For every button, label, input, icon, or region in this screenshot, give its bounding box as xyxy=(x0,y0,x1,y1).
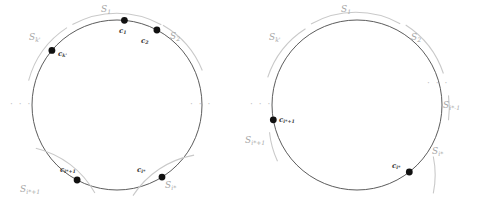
left-main-circle xyxy=(32,20,202,190)
right-label-cistar1: ci*+1 xyxy=(279,116,295,125)
right-label-Sistarm1: Si*-1 xyxy=(443,101,460,111)
right-label-cistar: ci* xyxy=(392,162,401,171)
right-ellipsis-east: · · · xyxy=(427,78,449,88)
right-arc-Sistar1 xyxy=(270,132,278,161)
left-label-Sk: Sk' xyxy=(29,33,41,43)
right-point-cistar1 xyxy=(270,116,277,123)
left-point-cistar1 xyxy=(74,177,81,184)
right-main-circle xyxy=(272,20,442,190)
right-label-Sistar1: Si*+1 xyxy=(245,136,265,146)
left-label-c2: c2 xyxy=(141,37,149,46)
left-label-S2: S2 xyxy=(170,32,180,42)
right-circle-group xyxy=(268,12,450,193)
left-label-Sistar1: Si*+1 xyxy=(20,185,40,195)
left-ellipsis-west: · · · xyxy=(10,99,32,109)
left-label-S1: S1 xyxy=(101,5,111,15)
left-label-cistar1: ci*+1 xyxy=(60,166,76,175)
right-label-Sk: Sk' xyxy=(269,33,281,43)
left-label-c1: c1 xyxy=(119,27,127,36)
figure-canvas: S1 S2 Sk' Si* Si*+1 c1 c2 ck' ci* ci*+1 … xyxy=(0,0,482,207)
left-point-ck xyxy=(49,47,56,54)
left-arc-S2 xyxy=(163,25,202,70)
right-label-S2: S2 xyxy=(411,33,421,43)
right-label-Sistar: Si* xyxy=(432,147,443,157)
right-ellipsis-west: · · · xyxy=(250,99,272,109)
left-label-cistar: ci* xyxy=(137,166,146,175)
left-arc-S1 xyxy=(72,13,161,25)
diagram-svg xyxy=(0,0,482,207)
left-label-Sistar: Si* xyxy=(165,181,176,191)
right-arc-Sistar xyxy=(433,157,435,194)
left-ellipsis-east: · · · xyxy=(190,99,212,109)
left-label-ck: ck' xyxy=(58,50,67,59)
right-point-cistar xyxy=(406,169,413,176)
left-point-c1 xyxy=(121,17,128,24)
left-point-c2 xyxy=(154,27,161,34)
right-label-S1: S1 xyxy=(341,5,351,15)
right-arc-S1 xyxy=(311,12,400,24)
